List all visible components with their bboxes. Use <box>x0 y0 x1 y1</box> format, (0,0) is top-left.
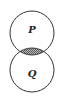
label-q: Q <box>28 68 37 79</box>
venn-diagram: P Q <box>0 0 63 101</box>
label-p: P <box>27 24 36 35</box>
